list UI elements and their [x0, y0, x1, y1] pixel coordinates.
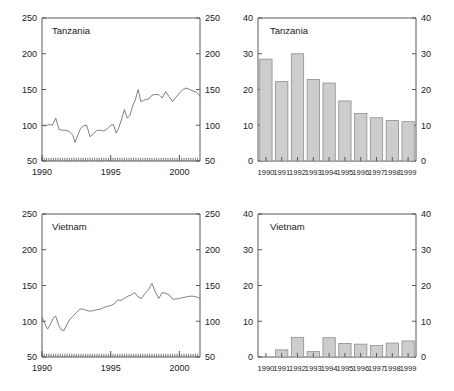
y-tick-label-left: 20	[243, 85, 253, 95]
y-tick-label-right: 40	[421, 209, 431, 219]
bar	[402, 122, 414, 161]
x-tick-label: 1999	[400, 168, 417, 177]
panel-title: Vietnam	[52, 221, 87, 232]
x-tick-label: 1992	[289, 168, 306, 177]
y-tick-label-right: 0	[421, 352, 426, 362]
x-tick-label: 1995	[336, 168, 353, 177]
y-tick-label-left: 50	[27, 352, 37, 362]
x-tick-label: 1990	[257, 168, 274, 177]
x-tick-label: 1991	[273, 168, 290, 177]
y-tick-label-right: 30	[421, 49, 431, 59]
x-tick-label: 1995	[336, 364, 353, 373]
bar	[307, 79, 319, 161]
y-tick-label-left: 30	[243, 245, 253, 255]
y-tick-label-left: 150	[22, 281, 37, 291]
y-tick-label-left: 250	[22, 13, 37, 23]
y-tick-label-left: 0	[248, 352, 253, 362]
y-tick-label-left: 250	[22, 209, 37, 219]
y-tick-label-right: 10	[421, 317, 431, 327]
y-tick-label-left: 10	[243, 121, 253, 131]
x-tick-label: 1996	[352, 168, 369, 177]
axis-frame	[42, 18, 200, 161]
panel-tanzania-line: 5050100100150150200200250250199019952000…	[0, 0, 228, 196]
x-tick-label: 1997	[368, 364, 385, 373]
panel-title: Tanzania	[52, 25, 91, 36]
x-tick-label: 1990	[257, 364, 274, 373]
x-tick-label: 1997	[368, 168, 385, 177]
panel-title: Vietnam	[270, 221, 305, 232]
data-series-line	[42, 283, 200, 330]
x-tick-label: 1994	[321, 168, 338, 177]
vietnam-line-svg: 5050100100150150200200250250199019952000…	[0, 196, 228, 391]
y-tick-label-right: 30	[421, 245, 431, 255]
y-tick-label-right: 50	[205, 156, 215, 166]
x-tick-label: 1993	[305, 364, 322, 373]
bar	[386, 121, 398, 161]
x-tick-label: 1991	[273, 364, 290, 373]
x-tick-label: 1990	[32, 363, 52, 373]
y-tick-label-left: 150	[22, 85, 37, 95]
bar	[339, 101, 351, 161]
y-tick-label-left: 50	[27, 156, 37, 166]
y-tick-label-left: 100	[22, 121, 37, 131]
y-tick-label-left: 40	[243, 13, 253, 23]
panel-tanzania-bars: 0010102020303040401990199119921993199419…	[226, 0, 454, 196]
axis-frame	[258, 214, 416, 357]
bar	[355, 113, 367, 161]
y-tick-label-left: 0	[248, 156, 253, 166]
y-tick-label-right: 40	[421, 13, 431, 23]
y-tick-label-right: 20	[421, 281, 431, 291]
y-tick-label-left: 100	[22, 317, 37, 327]
y-tick-label-right: 10	[421, 121, 431, 131]
y-tick-label-left: 30	[243, 49, 253, 59]
y-tick-label-right: 50	[205, 352, 215, 362]
x-tick-label: 1995	[101, 167, 121, 177]
panel-title: Tanzania	[270, 25, 309, 36]
y-tick-label-left: 20	[243, 281, 253, 291]
bar	[323, 83, 335, 161]
y-tick-label-left: 40	[243, 209, 253, 219]
bar	[260, 59, 272, 161]
y-tick-label-left: 10	[243, 317, 253, 327]
x-tick-label: 1995	[101, 363, 121, 373]
x-tick-label: 1998	[384, 168, 401, 177]
x-tick-label: 1990	[32, 167, 52, 177]
bar	[276, 82, 288, 161]
y-tick-label-right: 150	[205, 281, 220, 291]
vietnam-bars-svg: 0010102020303040401990199119921993199419…	[226, 196, 454, 391]
y-tick-label-right: 200	[205, 245, 220, 255]
panel-vietnam-line: 5050100100150150200200250250199019952000…	[0, 196, 228, 391]
tanzania-line-svg: 5050100100150150200200250250199019952000…	[0, 0, 228, 196]
y-tick-label-left: 200	[22, 245, 37, 255]
x-tick-label: 1992	[289, 364, 306, 373]
bar	[291, 54, 303, 161]
x-tick-label: 1993	[305, 168, 322, 177]
x-tick-label: 1999	[400, 364, 417, 373]
y-tick-label-left: 200	[22, 49, 37, 59]
y-tick-label-right: 200	[205, 49, 220, 59]
y-tick-label-right: 100	[205, 121, 220, 131]
y-tick-label-right: 150	[205, 85, 220, 95]
panel-vietnam-bars: 0010102020303040401990199119921993199419…	[226, 196, 454, 391]
data-series-line	[42, 88, 200, 142]
y-tick-label-right: 250	[205, 209, 220, 219]
axis-frame	[42, 214, 200, 357]
x-tick-label: 1996	[352, 364, 369, 373]
figure-canvas: 5050100100150150200200250250199019952000…	[0, 0, 454, 391]
x-tick-label: 2000	[169, 363, 189, 373]
y-tick-label-right: 0	[421, 156, 426, 166]
x-tick-label: 1994	[321, 364, 338, 373]
tanzania-bars-svg: 0010102020303040401990199119921993199419…	[226, 0, 454, 196]
y-tick-label-right: 100	[205, 317, 220, 327]
bar	[370, 118, 382, 161]
x-tick-label: 1998	[384, 364, 401, 373]
y-tick-label-right: 20	[421, 85, 431, 95]
x-tick-label: 2000	[169, 167, 189, 177]
y-tick-label-right: 250	[205, 13, 220, 23]
